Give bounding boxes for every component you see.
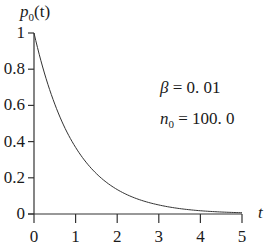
n0-annotation: n0 = 100. 0 [160, 109, 235, 130]
x-tick-label: 5 [238, 227, 247, 246]
x-ticks: 012345 [30, 214, 247, 246]
y-tick-label: 0.4 [4, 132, 26, 151]
y-tick-label: 1 [17, 23, 26, 42]
x-tick-label: 1 [71, 227, 80, 246]
y-tick-label: 0.2 [4, 168, 25, 187]
beta-annotation: β = 0. 01 [159, 78, 221, 97]
y-tick-label: 0 [17, 204, 26, 223]
x-tick-label: 2 [113, 227, 122, 246]
y-axis-label: p0(t) [19, 2, 50, 23]
x-tick-label: 0 [30, 227, 39, 246]
x-axis-label: t [258, 203, 264, 222]
decay-chart: p0(t) 00.20.40.60.81 012345 t β = 0. 01 … [0, 0, 267, 250]
y-tick-label: 0.6 [4, 95, 25, 114]
y-ticks: 00.20.40.60.81 [4, 23, 34, 223]
x-tick-label: 3 [155, 227, 164, 246]
x-tick-label: 4 [196, 227, 205, 246]
y-tick-label: 0.8 [4, 59, 25, 78]
